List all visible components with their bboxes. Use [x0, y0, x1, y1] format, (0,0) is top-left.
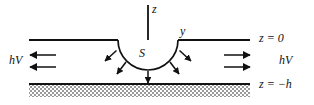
source-hemisphere-arc [118, 40, 178, 70]
y-axis-label: y [180, 25, 185, 37]
flux-arrows-left [30, 55, 56, 67]
flux-label-right-hv: hV [279, 54, 292, 66]
figure-canvas: z y S hV hV z = 0 z = −h [0, 0, 314, 105]
flux-arrows-right [224, 55, 250, 67]
radiating-flux-arrows [105, 51, 191, 84]
flux-label-left-hv: hV [9, 54, 22, 66]
z-axis-label: z [152, 3, 157, 15]
ground-hatching [29, 85, 250, 97]
boundary-label-z-equals-zero: z = 0 [259, 32, 284, 44]
boundary-label-z-equals-minus-h: z = −h [259, 78, 292, 90]
source-label-s: S [139, 47, 145, 59]
